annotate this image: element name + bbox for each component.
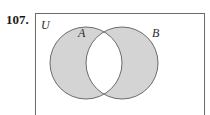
universe-label: U xyxy=(41,18,51,32)
venn-diagram: U A B xyxy=(0,0,210,115)
set-b-label: B xyxy=(152,26,160,40)
set-a-label: A xyxy=(77,26,86,40)
